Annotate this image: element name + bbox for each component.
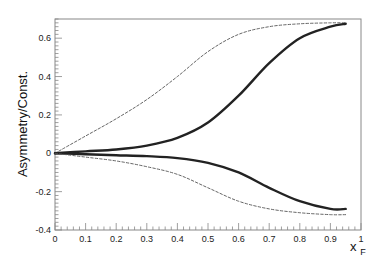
x-tick-label: 0.6 — [232, 234, 245, 244]
curve-upper-dashed — [55, 23, 346, 154]
x-tick-label: 0.4 — [171, 234, 184, 244]
y-tick-label: 0.6 — [38, 33, 51, 43]
chart: 00.10.20.30.40.50.60.70.80.91 -0.4-0.200… — [0, 0, 379, 268]
curve-lower-solid — [55, 153, 346, 209]
x-tick-label: 0.9 — [324, 234, 337, 244]
x-tick-label: 0.1 — [79, 234, 92, 244]
x-axis: 00.10.20.30.40.50.60.70.80.91 — [52, 223, 363, 244]
x-tick-label: 0.7 — [263, 234, 276, 244]
plot-area — [55, 19, 361, 230]
y-tick-label: 0.4 — [38, 72, 51, 82]
x-tick-label: 0.2 — [110, 234, 123, 244]
plot-curves — [55, 23, 346, 215]
y-tick-label: -0.2 — [35, 187, 51, 197]
x-tick-label: 0 — [52, 234, 57, 244]
y-tick-label: 0 — [46, 148, 51, 158]
y-axis: -0.4-0.200.20.40.6 — [35, 19, 62, 235]
y-tick-label: -0.4 — [35, 225, 51, 235]
y-axis-title: Asymmetry/Const. — [15, 71, 30, 177]
x-axis-title: x F — [350, 239, 366, 257]
curve-upper-solid — [55, 24, 346, 153]
y-tick-label: 0.2 — [38, 110, 51, 120]
x-tick-label: 0.8 — [294, 234, 307, 244]
x-tick-label: 0.5 — [202, 234, 215, 244]
plot-frame — [55, 19, 361, 230]
x-axis-title-subscript: F — [360, 247, 366, 257]
x-axis-title-main: x — [350, 239, 357, 254]
x-tick-label: 0.3 — [141, 234, 154, 244]
